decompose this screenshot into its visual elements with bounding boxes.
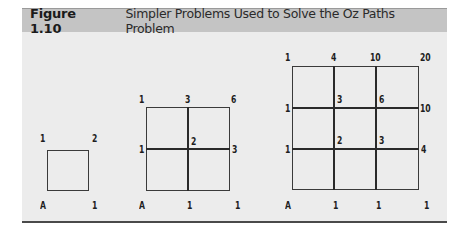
grid-line [292,107,419,109]
node-label: 1 [187,200,192,211]
node-label: 1 [285,144,290,155]
node-label: 20 [420,52,431,63]
node-label: 1 [285,52,290,63]
node-label: 10 [370,52,381,63]
node-label: 3 [232,144,237,155]
node-label: 1 [92,200,97,211]
figure-title: Simpler Problems Used to Solve the Oz Pa… [125,6,447,36]
node-label: 3 [337,94,342,105]
node-label: 1 [40,133,45,144]
grid-line [375,66,377,190]
figure-label: Figure 1.10 [30,6,111,36]
node-label: 2 [92,133,97,144]
node-label-start: A [139,200,145,211]
node-label: 6 [231,94,236,105]
figure-header: Figure 1.10 Simpler Problems Used to Sol… [22,8,447,32]
node-label: 4 [421,144,426,155]
node-label: 1 [424,200,429,211]
grid-3x3 [292,66,419,190]
node-label: 6 [379,94,384,105]
node-label: 1 [139,94,144,105]
grid-line [292,148,419,150]
grid-line [333,66,335,190]
node-label: 4 [331,52,336,63]
grid-line [146,148,230,150]
node-label-start: A [285,200,291,211]
node-label: 2 [337,135,342,146]
node-label: 1 [376,200,381,211]
node-label: 1 [235,200,240,211]
node-label: 1 [139,144,144,155]
node-label: 3 [379,135,384,146]
node-label-start: A [40,200,46,211]
node-label: 2 [191,136,196,147]
node-label: 1 [333,200,338,211]
node-label: 3 [185,94,190,105]
grid-1x1 [47,150,89,191]
node-label: 10 [420,103,431,114]
node-label: 1 [285,103,290,114]
